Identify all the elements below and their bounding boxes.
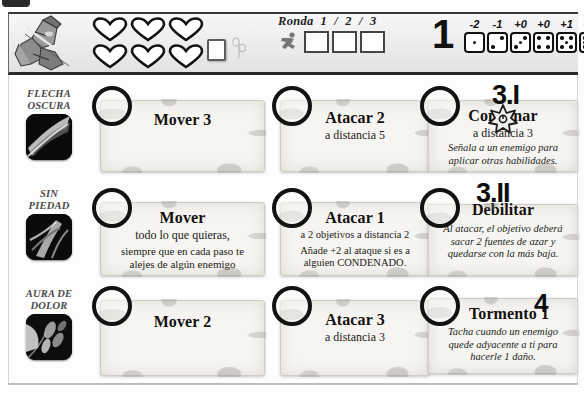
- ability-check-circle[interactable]: [420, 86, 460, 126]
- ability-row-flecha-oscura: Flecha Oscura Mover 3 Atacar 2: [8, 86, 578, 184]
- ability-check-circle[interactable]: [92, 286, 132, 326]
- card-body: Tacha cuando un enemigo quede adyacente …: [437, 326, 569, 364]
- card-subtitle: todo lo que quieras,: [109, 228, 256, 242]
- die-column: +1: [556, 18, 577, 53]
- dice-modifier-track: -2 -1 +0 +0: [464, 18, 584, 53]
- health-hearts: [91, 16, 205, 70]
- footer-rule: [8, 383, 578, 385]
- card-subtitle: a distancia 3: [289, 330, 421, 344]
- ability-check-circle[interactable]: [420, 286, 460, 326]
- character-sheet: Ronda 1 / 2 / 3 1 -2: [0, 0, 584, 397]
- merciless-portrait: [26, 214, 72, 260]
- ability-check-circle[interactable]: [272, 286, 312, 326]
- pain-aura-portrait: [26, 314, 72, 360]
- initiative-number: 1: [432, 14, 454, 54]
- ability-row-aura-de-dolor: Aura de Dolor Mover 2: [8, 286, 578, 384]
- row-label-line2: Oscura: [27, 100, 70, 111]
- round-numbers: 1 / 2 / 3: [321, 14, 379, 29]
- archer-ranger-portrait: [13, 14, 85, 72]
- die-column: -2: [464, 18, 485, 53]
- row-label-line2: Dolor: [30, 300, 67, 311]
- card-title: Mover 3: [109, 111, 256, 129]
- left-rule: [8, 75, 9, 383]
- row-label-line2: Piedad: [29, 200, 70, 211]
- die-modifier: +0: [533, 18, 554, 30]
- die-column: +0: [533, 18, 554, 53]
- star-burst-icon: [488, 104, 518, 138]
- level-badge: 4: [534, 290, 547, 316]
- heart-icon[interactable]: [168, 44, 204, 69]
- row-identity: Aura de Dolor: [8, 286, 80, 384]
- card-title: Mover 2: [109, 313, 256, 331]
- round-box-1[interactable]: [304, 31, 329, 53]
- die-modifier: +2: [579, 18, 584, 30]
- ability-cards: Mover todo lo que quieras, siempre que e…: [80, 186, 578, 284]
- die-face-5[interactable]: [556, 32, 577, 53]
- heart-icon[interactable]: [92, 17, 128, 42]
- row-label-line1: Flecha: [27, 88, 71, 99]
- row-label-line1: Sin: [40, 188, 58, 199]
- card-body: Al atacar, el objetivo deberá sacar 2 fu…: [437, 223, 569, 261]
- card-body: Señala a un enemigo para aplicar otras h…: [437, 142, 569, 167]
- health-extras: [207, 37, 246, 63]
- card-extra: Añade +2 al ataque si es a alguien CONDE…: [289, 245, 421, 269]
- sprout-icon: [232, 37, 246, 63]
- heart-icon[interactable]: [130, 44, 166, 69]
- die-face-6[interactable]: [579, 32, 584, 53]
- round-box-2[interactable]: [332, 31, 357, 53]
- die-face-4[interactable]: [533, 32, 554, 53]
- row-identity: Sin Piedad: [8, 186, 80, 284]
- die-modifier: +1: [556, 18, 577, 30]
- card-subtitle: a 2 objetivos a distancia 2: [289, 228, 421, 242]
- die-column: +0: [510, 18, 531, 53]
- die-face-3[interactable]: [510, 32, 531, 53]
- round-box-3[interactable]: [360, 31, 385, 53]
- ability-check-circle[interactable]: [420, 188, 460, 228]
- running-figure-icon: [277, 31, 301, 53]
- ability-cards: Mover 2 Atacar 3 a distancia 3 4 Torment…: [80, 286, 578, 384]
- empty-token-box[interactable]: [207, 39, 226, 61]
- ability-check-circle[interactable]: [272, 86, 312, 126]
- die-column: +2: [579, 18, 584, 53]
- top-tab-nub: [2, 0, 30, 7]
- row-label-line1: Aura de: [26, 288, 73, 299]
- die-column: -1: [487, 18, 508, 53]
- die-modifier: -1: [487, 18, 508, 30]
- level-badge: 3.II: [476, 180, 510, 207]
- row-identity: Flecha Oscura: [8, 86, 80, 184]
- ability-check-circle[interactable]: [92, 86, 132, 126]
- card-title: Tormento 1: [449, 305, 569, 323]
- heart-icon[interactable]: [92, 44, 128, 69]
- ability-check-circle[interactable]: [272, 188, 312, 228]
- ability-row-sin-piedad: Sin Piedad Mover todo lo que quieras, si…: [8, 186, 578, 284]
- heart-icon[interactable]: [168, 17, 204, 42]
- die-modifier: +0: [510, 18, 531, 30]
- die-modifier: -2: [464, 18, 485, 30]
- round-tracker: Ronda 1 / 2 / 3: [277, 14, 427, 53]
- ability-cards: Mover 3 Atacar 2 a distancia 5 3.I Conde…: [80, 86, 578, 184]
- die-face-1[interactable]: [464, 32, 485, 53]
- card-subtitle: a distancia 5: [289, 128, 421, 142]
- right-rule: [577, 75, 578, 383]
- die-face-2[interactable]: [487, 32, 508, 53]
- card-extra: siempre que en cada paso te alejes de al…: [109, 245, 256, 271]
- ability-check-circle[interactable]: [92, 188, 132, 228]
- dark-arrow-portrait: [26, 114, 72, 160]
- round-label: Ronda: [278, 14, 314, 29]
- heart-icon[interactable]: [130, 17, 166, 42]
